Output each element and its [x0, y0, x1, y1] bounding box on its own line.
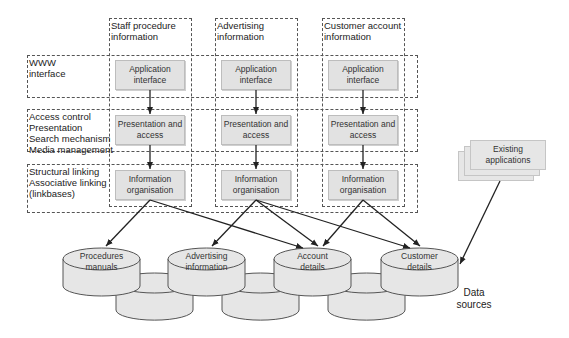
label-line: sources	[452, 299, 496, 311]
data-store-procedures: Procedures manuals	[63, 251, 140, 273]
label-line: Advertising	[168, 251, 245, 262]
vertical-arrows	[150, 90, 363, 169]
label-line: details	[274, 262, 351, 273]
data-store-customer: Customer details	[381, 251, 458, 273]
data-store-account: Account details	[274, 251, 351, 273]
back-cylinders	[116, 273, 405, 320]
label-line: details	[381, 262, 458, 273]
label-line: Procedures	[63, 251, 140, 262]
data-sources-label: Data sources	[452, 287, 496, 311]
label-line: Data	[452, 287, 496, 299]
label-line: Customer	[381, 251, 458, 262]
label-line: Account	[274, 251, 351, 262]
label-line: manuals	[63, 262, 140, 273]
data-store-advertising: Advertising information	[168, 251, 245, 273]
label-line: information	[168, 262, 245, 273]
